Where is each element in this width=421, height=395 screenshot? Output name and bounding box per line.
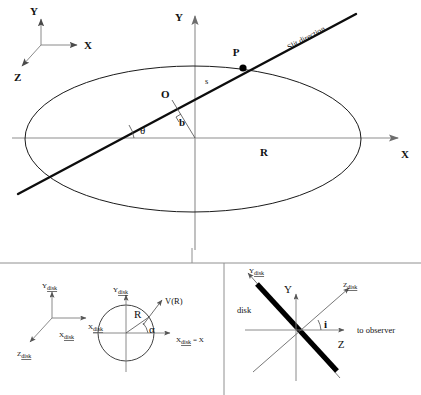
disk-label: disk	[237, 305, 252, 315]
radius-r-label: R	[260, 146, 269, 158]
radius-label: R	[134, 308, 142, 320]
point-o-label: O	[161, 88, 170, 100]
sky-z-label: Z	[338, 338, 345, 350]
point-p-marker	[239, 64, 246, 71]
alpha-label: α	[149, 323, 155, 335]
figure-root: Y X Z Y X θ b s O P R Slit direction	[0, 0, 421, 395]
impact-parameter-label: b	[179, 116, 185, 128]
triad-z-label: Z	[14, 71, 21, 83]
main-y-axis-label: Y	[175, 11, 183, 23]
triad-y-label: Y	[30, 5, 38, 17]
triad-x-label: X	[84, 39, 92, 51]
inclination-label: i	[324, 318, 327, 330]
point-p-label: P	[233, 46, 240, 58]
arclength-label: s	[205, 76, 208, 86]
theta-label: θ	[140, 124, 145, 136]
observer-label: to observer	[357, 325, 395, 335]
main-x-axis-label: X	[401, 148, 409, 160]
velocity-label: V(R)	[165, 296, 183, 306]
sky-y-label: Y	[284, 283, 292, 295]
figure-svg: Y X Z Y X θ b s O P R Slit direction	[0, 0, 421, 395]
